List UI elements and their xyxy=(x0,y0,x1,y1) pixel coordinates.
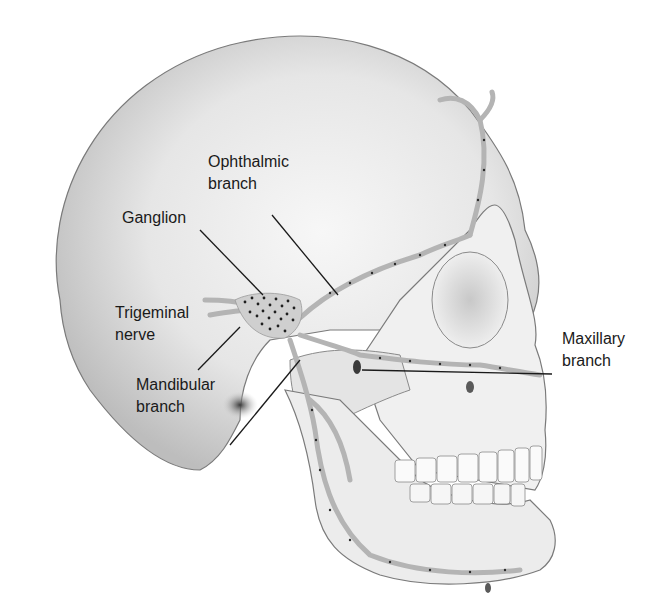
mandibular-line1: Mandibular xyxy=(136,374,215,396)
ear-opening xyxy=(222,391,258,419)
mental-foramen xyxy=(485,583,491,593)
mandibular-line2: branch xyxy=(136,396,215,418)
maxillary-foramen xyxy=(353,360,361,374)
skull-illustration xyxy=(0,0,663,603)
trigeminal-line1: Trigeminal xyxy=(115,302,189,324)
maxillary-branch-label: Maxillary branch xyxy=(562,328,625,372)
trigeminal-line2: nerve xyxy=(115,324,189,346)
mandibular-branch-label: Mandibular branch xyxy=(136,374,215,418)
ophthalmic-line1: Ophthalmic xyxy=(208,151,289,173)
ophthalmic-branch-label: Ophthalmic branch xyxy=(208,151,289,195)
ophthalmic-line2: branch xyxy=(208,173,289,195)
ganglion-label: Ganglion xyxy=(122,207,186,229)
trigeminal-nerve-label: Trigeminal nerve xyxy=(115,302,189,346)
eye-orbit xyxy=(432,252,508,348)
maxillary-line1: Maxillary xyxy=(562,328,625,350)
ganglion-line1: Ganglion xyxy=(122,207,186,229)
maxillary-line2: branch xyxy=(562,350,625,372)
infraorbital-foramen xyxy=(466,381,474,393)
